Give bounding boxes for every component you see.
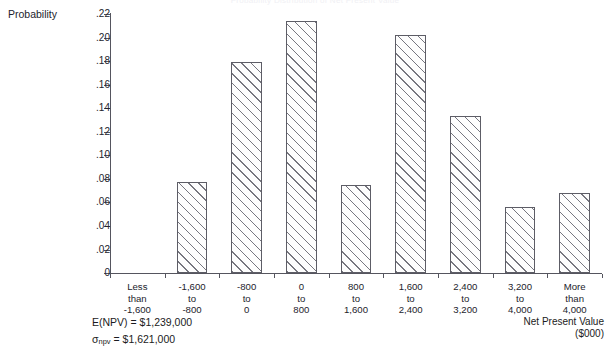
histogram-bar: [231, 62, 262, 273]
histogram-bar: [559, 193, 590, 273]
y-tick-label: 0: [72, 267, 110, 279]
x-tick-mark: [602, 274, 603, 278]
y-tick-label: .10: [72, 149, 110, 161]
y-tick-label: .02: [72, 244, 110, 256]
npv-std-dev-annotation: σnpv = $1,621,000: [92, 333, 175, 346]
y-tick-label: .14: [72, 102, 110, 114]
y-tick-label: .22: [72, 8, 110, 20]
y-tick-label: .20: [72, 32, 110, 44]
y-tick-label-text: .14: [72, 102, 110, 113]
x-category-label: -800 to 0: [215, 281, 278, 316]
chart-title: Probability Distribution of Net Present …: [150, 0, 480, 6]
y-tick-label-text: .10: [72, 149, 110, 160]
y-tick-label-text: .18: [72, 55, 110, 66]
y-tick-label-text: .04: [72, 220, 110, 231]
histogram-bar: [286, 21, 317, 273]
y-tick-label: .16: [72, 79, 110, 91]
x-tick-mark: [219, 274, 220, 278]
x-category-label: 800 to 1,600: [325, 281, 388, 316]
histogram-bar: [341, 185, 372, 273]
x-category-label: 3,200 to 4,000: [489, 281, 552, 316]
y-tick-label: .06: [72, 196, 110, 208]
plot-area: [110, 14, 602, 273]
y-tick-label: .12: [72, 126, 110, 138]
x-category-label: More than 4,000: [543, 281, 606, 316]
y-tick-label: .18: [72, 55, 110, 67]
y-tick-label-text: .12: [72, 126, 110, 137]
y-tick-label-text: .16: [72, 79, 110, 90]
histogram-bar: [505, 207, 536, 273]
histogram-bar: [450, 116, 481, 273]
y-tick-label-text: .02: [72, 244, 110, 255]
x-tick-mark: [274, 274, 275, 278]
y-tick-label: .04: [72, 220, 110, 232]
y-tick-label-text: .22: [72, 8, 110, 19]
y-tick-label-text: .08: [72, 173, 110, 184]
y-tick-label-text: .20: [72, 32, 110, 43]
expected-npv-annotation: E(NPV) = $1,239,000: [92, 316, 192, 328]
histogram-bar: [177, 182, 208, 273]
x-tick-mark: [547, 274, 548, 278]
sigma-subscript: npv: [98, 337, 110, 346]
x-tick-mark: [383, 274, 384, 278]
y-axis-title: Probability: [8, 8, 57, 20]
y-tick-label: .08: [72, 173, 110, 185]
x-axis-line: [110, 273, 602, 274]
y-tick-label-text: .06: [72, 196, 110, 207]
x-tick-mark: [165, 274, 166, 278]
x-tick-mark: [110, 274, 111, 278]
x-tick-mark: [438, 274, 439, 278]
x-category-label: -1,600 to -800: [161, 281, 224, 316]
x-tick-mark: [329, 274, 330, 278]
x-category-label: Less than -1,600: [106, 281, 169, 316]
y-tick-label-text: 0: [72, 267, 110, 278]
x-category-label: 2,400 to 3,200: [434, 281, 497, 316]
histogram-bar: [395, 35, 426, 273]
x-category-label: 0 to 800: [270, 281, 333, 316]
x-tick-mark: [493, 274, 494, 278]
npv-probability-histogram: Probability Distribution of Net Present …: [0, 0, 610, 360]
x-category-label: 1,600 to 2,400: [379, 281, 442, 316]
x-axis-title: Net Present Value ($000): [524, 316, 604, 340]
sigma-value: = $1,621,000: [111, 333, 176, 345]
